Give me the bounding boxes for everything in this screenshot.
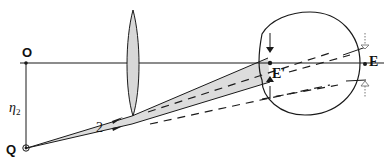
label-image-outer: E bbox=[369, 54, 378, 69]
pupil-arrow-top-head bbox=[266, 47, 274, 53]
light-beam-segment-2 bbox=[132, 58, 270, 124]
lens bbox=[127, 10, 139, 116]
label-height-subscript: 2 bbox=[16, 107, 21, 117]
origin-point bbox=[24, 61, 28, 65]
image-point-e bbox=[363, 62, 367, 66]
object-point-q-center bbox=[25, 147, 28, 150]
label-height: η2 bbox=[9, 100, 20, 117]
exit-ray-upper bbox=[343, 47, 366, 55]
label-ray: 2 bbox=[96, 120, 103, 135]
optics-diagram: O Q η2 2 E' E bbox=[0, 0, 392, 165]
image-point-e-prime bbox=[268, 61, 272, 65]
label-origin: O bbox=[22, 45, 32, 60]
label-height-symbol: η bbox=[9, 100, 16, 115]
label-object-point: Q bbox=[6, 142, 16, 157]
exit-ray-lower bbox=[346, 80, 366, 81]
exit-arrow-bottom-head bbox=[361, 81, 369, 86]
label-image-inner: E' bbox=[272, 66, 285, 81]
